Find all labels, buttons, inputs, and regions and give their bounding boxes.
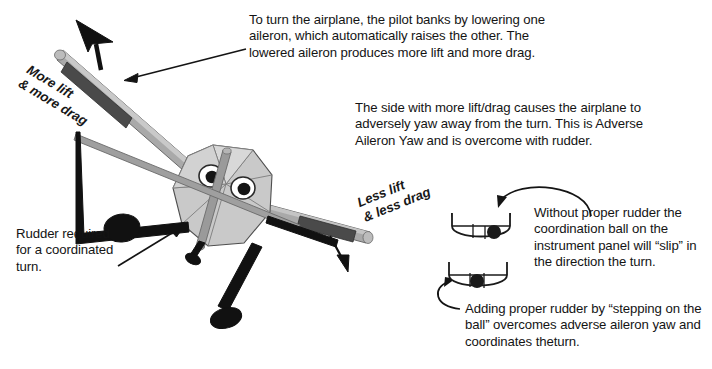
diagram-canvas: To turn the airplane, the pilot banks by… [0,0,712,369]
text-adverse-yaw: The side with more lift/drag causes the … [355,100,645,149]
text-rudder-required: Rudder required for a coordinated turn. [16,226,126,275]
text-adding-proper-rudder: Adding proper rudder by “stepping on the… [465,301,712,350]
inclinometer-coordinated [449,262,507,288]
coordination-ball-slipping [487,225,501,239]
arrow-to-left-wing [124,49,246,83]
more-lift-arrow [76,20,113,70]
coordination-ball-coordinated [470,274,484,288]
airplane-group [55,20,374,332]
text-bank-explanation: To turn the airplane, the pilot banks by… [249,12,569,61]
inclinometer-slipping [452,213,510,239]
text-without-proper-rudder: Without proper rudder the coordination b… [534,205,712,271]
